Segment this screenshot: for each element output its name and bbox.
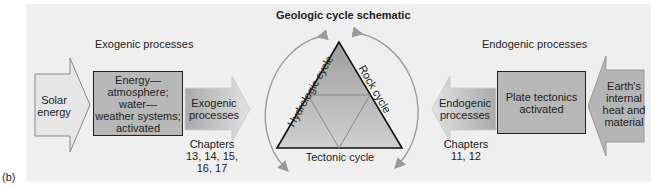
plate-tectonics-box: Plate tectonics activated [497, 71, 586, 134]
exogenic-processes-label: Exogenic processes [186, 97, 242, 121]
tectonic-cycle-label: Tectonic cycle [295, 151, 385, 163]
endogenic-processes-label: Endogenic processes [436, 97, 494, 121]
earth-internal-heat-label: Earth's internal heat and material [601, 80, 647, 128]
endogenic-chapters: Chapters 11, 12 [441, 138, 491, 162]
endogenic-heading: Endogenic processes [482, 38, 602, 50]
diagram-title: Geologic cycle schematic [276, 9, 411, 21]
solar-energy-label: Solar energy [33, 94, 75, 118]
exogenic-heading: Exogenic processes [95, 38, 215, 50]
figure-label: (b) [2, 171, 15, 183]
energy-atmosphere-box: Energy— atmosphere; water— weather syste… [93, 71, 183, 136]
exogenic-chapters: Chapters 13, 14, 15, 16, 17 [182, 138, 242, 174]
